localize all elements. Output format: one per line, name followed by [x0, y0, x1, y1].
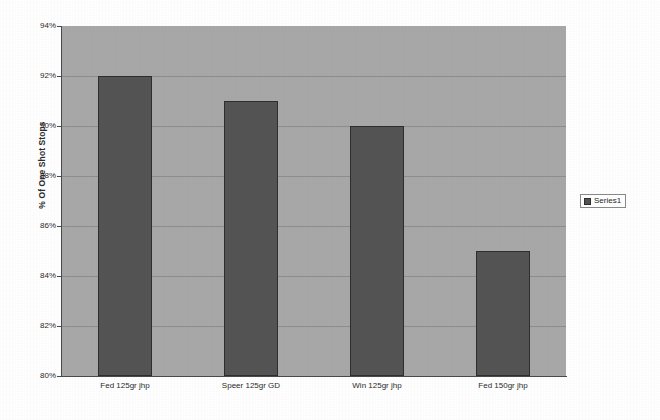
bar[interactable]	[224, 101, 278, 376]
x-axis-line	[61, 376, 567, 377]
x-axis-category-label: Speer 125gr GD	[188, 381, 314, 390]
x-axis-category-label: Win 125gr jhp	[314, 381, 440, 390]
legend-color-swatch-series1	[584, 198, 591, 205]
y-axis-tick-mark	[57, 176, 62, 177]
y-axis-tick-mark	[57, 326, 62, 327]
bar-chart: % Of One Shot Stops 94%92%90%88%86%84%82…	[0, 0, 660, 420]
y-axis-tick-label: 90%	[12, 122, 56, 130]
y-axis-tick-mark	[57, 126, 62, 127]
y-axis-tick-mark	[57, 376, 62, 377]
y-axis-tick-labels: 94%92%90%88%86%84%82%80%	[6, 0, 56, 420]
x-axis-category-labels: Fed 125gr jhpSpeer 125gr GDWin 125gr jhp…	[62, 381, 566, 401]
bar[interactable]	[98, 76, 152, 376]
y-axis-tick-label: 94%	[12, 22, 56, 30]
x-axis-category-label: Fed 125gr jhp	[62, 381, 188, 390]
legend-label-series1: Series1	[594, 197, 621, 205]
y-axis-tick-label: 92%	[12, 72, 56, 80]
y-axis-tick-mark	[57, 276, 62, 277]
y-axis-tick-label: 82%	[12, 322, 56, 330]
y-axis-tick-label: 84%	[12, 272, 56, 280]
y-axis-tick-label: 80%	[12, 372, 56, 380]
plot-area	[62, 26, 566, 376]
bar[interactable]	[350, 126, 404, 376]
legend[interactable]: Series1	[580, 194, 626, 208]
y-axis-tick-label: 88%	[12, 172, 56, 180]
y-axis-tick-mark	[57, 226, 62, 227]
y-axis-tick-mark	[57, 26, 62, 27]
y-axis-tick-label: 86%	[12, 222, 56, 230]
bar[interactable]	[476, 251, 530, 376]
x-axis-category-label: Fed 150gr jhp	[440, 381, 566, 390]
y-axis-tick-mark	[57, 76, 62, 77]
